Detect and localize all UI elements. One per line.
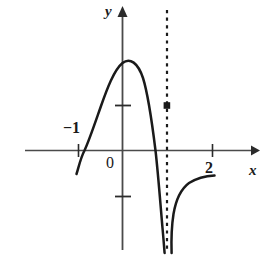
curve-left-branch	[77, 61, 165, 253]
x-tick-label-negative-one: −1	[63, 120, 80, 136]
marked-point-square	[164, 102, 171, 109]
graph-figure: y x −1 0 2	[0, 0, 271, 262]
x-axis-arrowhead	[251, 146, 260, 156]
x-axis-label: x	[249, 163, 257, 178]
y-axis-arrowhead	[118, 6, 128, 17]
y-axis-label: y	[105, 4, 112, 19]
curve-right-branch	[171, 176, 214, 254]
plot-canvas	[0, 0, 271, 262]
origin-label: 0	[106, 155, 114, 171]
x-tick-label-two: 2	[205, 160, 213, 176]
